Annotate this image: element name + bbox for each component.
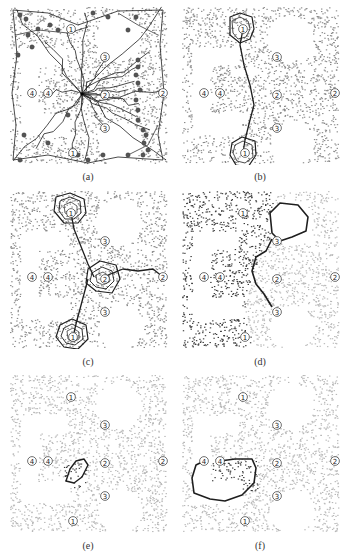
region-marker: 1 bbox=[239, 25, 248, 34]
marker-label: 1 bbox=[241, 26, 245, 34]
marker-label: 3 bbox=[103, 238, 107, 246]
waypoint-node bbox=[66, 113, 70, 117]
region-marker: 1 bbox=[239, 393, 248, 402]
region-marker: 3 bbox=[101, 124, 110, 133]
marker-label: 2 bbox=[333, 458, 337, 466]
waypoint-node bbox=[46, 141, 50, 145]
region-boundary bbox=[270, 203, 308, 241]
marker-label: 3 bbox=[275, 125, 279, 133]
region-marker: 4 bbox=[44, 273, 53, 282]
region-marker: 1 bbox=[69, 149, 78, 158]
marker-label: 4 bbox=[218, 90, 223, 98]
marker-label: 1 bbox=[71, 334, 75, 342]
panel-b: 13442231 bbox=[180, 5, 340, 165]
region-marker: 3 bbox=[101, 53, 110, 62]
waypoint-node bbox=[126, 28, 130, 32]
environment-map: 13442231 bbox=[180, 5, 340, 165]
marker-label: 2 bbox=[161, 90, 165, 98]
region-marker: 2 bbox=[273, 459, 282, 468]
waypoint-node bbox=[136, 81, 140, 85]
region-marker: 3 bbox=[273, 53, 282, 62]
waypoint-node bbox=[142, 141, 146, 145]
marker-label: 1 bbox=[69, 394, 73, 402]
free-space-dots bbox=[182, 7, 339, 164]
region-marker: 1 bbox=[241, 333, 250, 342]
marker-label: 2 bbox=[333, 90, 337, 98]
waypoint-node bbox=[26, 33, 30, 37]
region-marker: 2 bbox=[331, 89, 340, 98]
region-markers: 13442231 bbox=[28, 393, 168, 526]
waypoint-node bbox=[136, 118, 140, 122]
waypoint-node bbox=[106, 15, 110, 19]
region-marker: 3 bbox=[273, 421, 282, 430]
region-marker: 1 bbox=[69, 517, 78, 526]
marker-label: 3 bbox=[275, 54, 279, 62]
waypoint-node bbox=[134, 73, 138, 77]
region-marker: 4 bbox=[216, 273, 225, 282]
region-marker: 1 bbox=[241, 149, 250, 158]
waypoint-node bbox=[146, 148, 150, 152]
free-space-dots bbox=[10, 191, 167, 348]
region-marker: 2 bbox=[159, 273, 168, 282]
marker-label: 3 bbox=[275, 238, 279, 246]
waypoint-node bbox=[134, 98, 138, 102]
region-marker: 3 bbox=[101, 492, 110, 501]
waypoint-node bbox=[136, 108, 140, 112]
path-line bbox=[45, 42, 83, 94]
region-marker: 3 bbox=[273, 492, 282, 501]
waypoint-node bbox=[134, 15, 138, 19]
marker-label: 3 bbox=[103, 125, 107, 133]
waypoint-node bbox=[91, 11, 95, 15]
panel-e-label: (e) bbox=[8, 540, 168, 551]
marker-label: 2 bbox=[275, 92, 279, 100]
waypoint-node bbox=[141, 153, 145, 157]
waypoint-node bbox=[48, 23, 52, 27]
region-boundary bbox=[66, 459, 88, 483]
marker-label: 2 bbox=[161, 274, 165, 282]
environment-map: 13442231 bbox=[8, 189, 168, 349]
marker-label: 1 bbox=[71, 150, 75, 158]
region-marker: 4 bbox=[28, 273, 37, 282]
marker-label: 1 bbox=[241, 210, 245, 218]
waypoint-node bbox=[138, 88, 142, 92]
panel-c: 13442231 bbox=[8, 189, 168, 349]
marker-label: 3 bbox=[103, 493, 107, 501]
region-marker: 1 bbox=[67, 209, 76, 218]
panel-c-label: (c) bbox=[8, 356, 168, 367]
marker-label: 2 bbox=[103, 276, 107, 284]
region-markers: 13442231 bbox=[200, 209, 340, 342]
path-line bbox=[82, 65, 141, 94]
waypoint-node bbox=[16, 53, 20, 57]
marker-label: 4 bbox=[30, 274, 35, 282]
marker-label: 2 bbox=[275, 460, 279, 468]
environment-map: 13442231 bbox=[8, 373, 168, 533]
region-marker: 4 bbox=[200, 457, 209, 466]
region-marker: 1 bbox=[241, 517, 250, 526]
region-marker: 4 bbox=[216, 89, 225, 98]
waypoint-node bbox=[101, 153, 105, 157]
free-space-dots bbox=[10, 375, 167, 532]
marker-label: 4 bbox=[46, 274, 51, 282]
marker-label: 2 bbox=[103, 92, 107, 100]
marker-label: 2 bbox=[161, 458, 165, 466]
waypoint-node bbox=[56, 28, 60, 32]
waypoint-node bbox=[126, 153, 130, 157]
region-marker: 4 bbox=[200, 273, 209, 282]
panel-a-label: (a) bbox=[8, 171, 168, 182]
waypoint-node bbox=[24, 17, 28, 21]
environment-map: 13442231 bbox=[180, 189, 340, 349]
waypoint-node bbox=[136, 65, 140, 69]
region-marker: 4 bbox=[28, 89, 37, 98]
marker-label: 4 bbox=[30, 458, 35, 466]
marker-label: 4 bbox=[46, 90, 51, 98]
region-marker: 4 bbox=[200, 89, 209, 98]
panel-a: 13442231 bbox=[8, 5, 168, 165]
marker-label: 1 bbox=[241, 394, 245, 402]
panel-f: 13442231 bbox=[180, 373, 340, 533]
region-marker: 2 bbox=[101, 275, 110, 284]
planned-paths bbox=[66, 459, 88, 483]
contour bbox=[54, 193, 86, 223]
marker-label: 3 bbox=[275, 309, 279, 317]
region-marker: 3 bbox=[101, 308, 110, 317]
region-marker: 1 bbox=[239, 209, 248, 218]
